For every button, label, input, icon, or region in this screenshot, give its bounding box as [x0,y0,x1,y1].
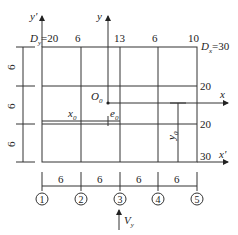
origin-label: O0 [91,90,103,105]
frame-plan-diagram: y' y x x' O0 Dy=20 Dx=30 6 13 6 10 20 20… [0,0,238,235]
y-label: y [96,10,102,22]
axis-number-2: 2 [79,194,84,205]
x-prime-label: x' [218,148,227,160]
y-prime-label: y' [29,10,38,22]
dy-label: Dy=20 [29,32,59,47]
row-stiffness-4: 30 [200,150,212,162]
row-stiffness-2: 20 [200,80,212,92]
x0-label: x0 [67,107,77,122]
bottom-dim-4: 6 [174,173,180,185]
x-label: x [219,88,225,100]
left-dim-3: 6 [5,141,17,147]
column-stiffness-2: 6 [75,32,81,44]
axis-number-1: 1 [40,194,45,205]
e0-label: e0 [110,107,119,122]
origin-point [106,101,109,104]
column-stiffness-5: 10 [188,32,200,44]
bottom-dim-1: 6 [58,173,64,185]
axis-number-5: 5 [195,194,200,205]
vy-label: Vy [124,214,135,229]
axis-number-4: 4 [156,194,161,205]
axis-number-3: 3 [118,194,123,205]
row-stiffness-3: 20 [200,118,212,130]
bottom-dim-2: 6 [97,173,103,185]
left-dim-1: 6 [5,64,17,70]
column-stiffness-4: 6 [152,32,158,44]
dx-label: Dx=30 [200,40,230,55]
bottom-dim-3: 6 [136,173,142,185]
column-stiffness-3: 13 [114,32,126,44]
left-dim-2: 6 [5,103,17,109]
